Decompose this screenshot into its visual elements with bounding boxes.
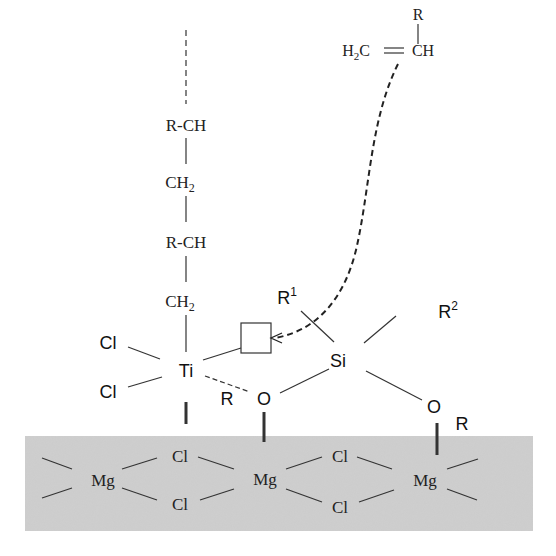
si-o-right-bond — [366, 371, 422, 400]
si-label: Si — [330, 351, 346, 371]
catalyst-diagram: R-CH CH2 R-CH CH2 Ti Cl Cl R Si R1 R2 O … — [0, 0, 556, 556]
alkoxy-r-left: R — [221, 389, 234, 409]
ti-cl-bond — [128, 377, 162, 387]
chain-unit-rch: R-CH — [166, 116, 207, 135]
mg-label: Mg — [91, 471, 115, 490]
ti-label: Ti — [179, 361, 193, 381]
monomer-h2c-label: H2C — [342, 42, 370, 62]
ti-cl-top-label: Cl — [100, 333, 117, 353]
titanium-center — [128, 323, 271, 424]
si-r2-bond — [364, 316, 396, 343]
mg-label: Mg — [413, 471, 437, 490]
monomer-r-label: R — [413, 6, 424, 23]
r2-label: R2 — [438, 299, 458, 322]
vacant-site-square — [241, 323, 271, 353]
monomer-ch-label: CH — [412, 42, 435, 59]
cl-label: Cl — [332, 498, 348, 517]
cl-label: Cl — [172, 447, 188, 466]
chain-unit-ch2: CH2 — [165, 292, 195, 314]
ti-vacancy-bond — [203, 348, 241, 360]
silane-donor — [264, 311, 437, 455]
cl-label: Cl — [332, 447, 348, 466]
mg-label: Mg — [253, 470, 277, 489]
si-o-left-bond — [280, 369, 329, 393]
ti-cl-bond — [128, 347, 160, 359]
o-left-label: O — [257, 389, 271, 409]
diagram-canvas: R-CH CH2 R-CH CH2 Ti Cl Cl R Si R1 R2 O … — [0, 0, 556, 556]
cl-label: Cl — [172, 495, 188, 514]
o-right-label: O — [427, 397, 441, 417]
arrow-head-icon — [271, 333, 282, 343]
r1-label: R1 — [277, 285, 297, 308]
ti-cl-bottom-label: Cl — [100, 382, 117, 402]
chain-unit-ch2: CH2 — [165, 173, 195, 195]
chain-unit-rch: R-CH — [166, 233, 207, 252]
alkoxy-r-right: R — [456, 414, 469, 434]
